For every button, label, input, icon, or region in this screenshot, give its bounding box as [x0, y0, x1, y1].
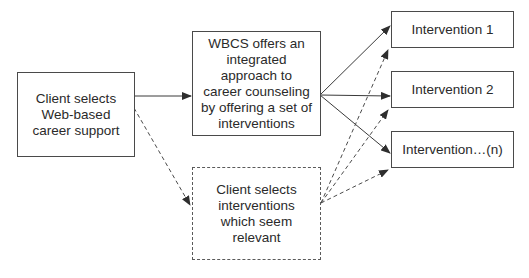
node-label: WBCS offers an integrated approach to ca…	[201, 36, 312, 132]
node-wbcs-offers-integrated-approach: WBCS offers an integrated approach to ca…	[192, 31, 321, 136]
node-intervention-1: Intervention 1	[391, 11, 514, 48]
node-label: Intervention…(n)	[402, 142, 503, 158]
edge-select-to-intervention-1	[321, 50, 388, 203]
edge-wbcs-to-intervention-2	[320, 95, 390, 96]
node-intervention-2: Intervention 2	[391, 71, 514, 108]
edge-wbcs-to-intervention-1	[320, 26, 390, 95]
node-label: Intervention 1	[412, 22, 494, 38]
node-label: Intervention 2	[412, 82, 494, 98]
node-client-selects-interventions: Client selects interventions which seem …	[192, 167, 321, 260]
node-intervention-n: Intervention…(n)	[391, 131, 514, 168]
node-label: Client selects interventions which seem …	[216, 182, 296, 246]
edge-wbcs-to-intervention-n	[320, 95, 390, 153]
node-client-selects-web-support: Client selects Web-based career support	[17, 72, 135, 157]
edge-web-to-select-interventions	[134, 108, 190, 205]
edge-select-to-intervention-n	[321, 170, 388, 203]
node-label: Client selects Web-based career support	[32, 91, 119, 139]
